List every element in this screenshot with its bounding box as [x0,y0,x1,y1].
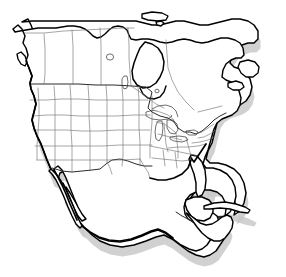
great-slave-lake [106,54,113,60]
north-america-map [0,0,286,277]
vancouver-island [17,52,27,66]
arctic-island-west [142,12,168,21]
lake-of-the-woods [155,89,159,93]
nova-scotia [228,81,244,90]
lake-winnipeg [122,76,128,89]
map-container [0,0,286,277]
